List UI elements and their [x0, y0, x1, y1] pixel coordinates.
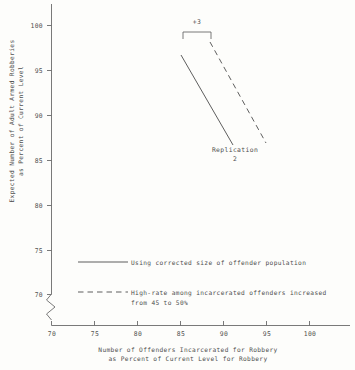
- x-axis-title-line2: as Percent of Current Level for Robbery: [109, 355, 268, 362]
- offset-bracket-label: +3: [182, 18, 212, 27]
- legend-entry-dashed-line2: from 45 to 50%: [131, 299, 188, 306]
- y-tick-label-75: 75: [21, 247, 43, 255]
- plot-background: [0, 0, 355, 370]
- legend-entry-dashed-line1: High-rate among incarcerated offenders i…: [131, 289, 327, 296]
- x-tick-label-85: 85: [170, 330, 192, 338]
- x-tick-label-95: 95: [256, 330, 278, 338]
- legend-entry-dashed-label: High-rate among incarcerated offenders i…: [131, 288, 327, 307]
- x-tick-label-100: 100: [299, 330, 321, 338]
- y-tick-label-70: 70: [21, 291, 43, 299]
- legend-entry-solid-line1: Using corrected size of offender populat…: [131, 259, 306, 266]
- y-axis-title: Expected Number of Adult Armed Robberies…: [7, 21, 25, 221]
- x-tick-label-70: 70: [41, 330, 63, 338]
- x-tick-label-80: 80: [127, 330, 149, 338]
- y-axis-title-line1: Expected Number of Adult Armed Robberies: [8, 40, 15, 203]
- chart-canvas: [0, 0, 355, 370]
- y-axis-title-line2: as Percent of Current Level: [17, 66, 24, 176]
- replication-label: Replication2: [196, 146, 274, 164]
- replication-label-line2: 2: [233, 155, 237, 163]
- x-tick-label-75: 75: [84, 330, 106, 338]
- x-axis-title-line1: Number of Offenders Incarcerated for Rob…: [98, 346, 277, 353]
- x-tick-label-90: 90: [213, 330, 235, 338]
- legend-entry-solid-label: Using corrected size of offender populat…: [131, 258, 306, 268]
- x-axis-title: Number of Offenders Incarcerated for Rob…: [28, 345, 348, 363]
- replication-label-line1: Replication: [212, 146, 258, 154]
